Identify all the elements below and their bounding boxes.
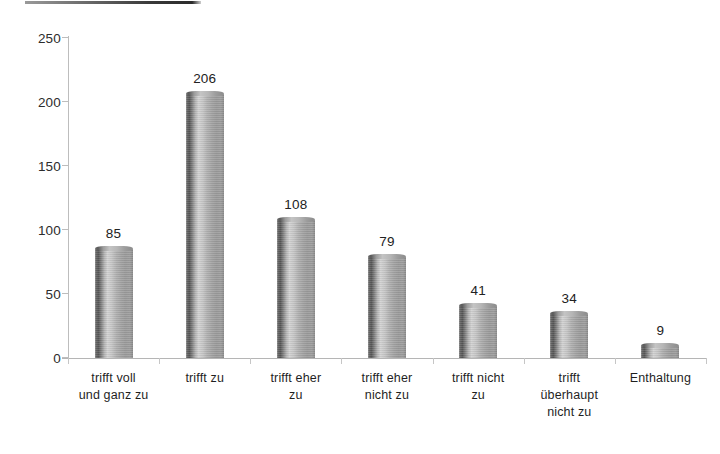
bar[interactable]: 79: [368, 233, 406, 358]
x-axis-category-label-line: trifft eher: [341, 370, 432, 387]
x-axis-category-label: trifft ehernicht zu: [341, 370, 432, 404]
x-axis-category-label-line: trifft nicht: [433, 370, 524, 387]
bar-chart: 250200150100500 852061087941349 trifft v…: [0, 0, 720, 454]
y-axis-tick-label: 200: [38, 95, 61, 110]
bar[interactable]: 34: [550, 290, 588, 358]
x-axis-tick-mark: [433, 358, 434, 364]
x-axis-category-label-line: überhaupt: [524, 387, 615, 404]
x-axis-category-label: trifftüberhauptnicht zu: [524, 370, 615, 421]
x-axis-category-label-line: zu: [250, 387, 341, 404]
bar-value-label: 206: [186, 71, 224, 86]
y-axis-tick-mark: [62, 165, 69, 166]
y-axis-tick-mark: [62, 293, 69, 294]
title-underline-rule: [25, 1, 201, 4]
x-axis-tick-mark: [706, 358, 707, 364]
y-axis-line: [68, 36, 69, 360]
bar-top-cap: [95, 246, 133, 251]
bar-value-label: 79: [368, 234, 406, 249]
x-axis-category-label-line: trifft voll: [68, 370, 159, 387]
bar-value-label: 108: [277, 197, 315, 212]
bar-body: [368, 257, 406, 358]
x-axis-tick-mark: [159, 358, 160, 364]
x-axis-category-label: trifft nichtzu: [433, 370, 524, 404]
x-axis-category-label: trifft vollund ganz zu: [68, 370, 159, 404]
bar-top-cap: [277, 217, 315, 222]
bar-body: [459, 306, 497, 358]
bar-top-cap: [550, 311, 588, 316]
x-axis-category-label: trifft zu: [159, 370, 250, 387]
y-axis-tick-mark: [62, 101, 69, 102]
bar[interactable]: 9: [641, 322, 679, 358]
bar[interactable]: 85: [95, 225, 133, 358]
x-axis-tick-mark: [524, 358, 525, 364]
bar[interactable]: 41: [459, 282, 497, 358]
y-axis-tick-label: 150: [38, 159, 61, 174]
x-axis-category-label-line: trifft: [524, 370, 615, 387]
x-axis-category-label-line: Enthaltung: [615, 370, 706, 387]
y-axis-tick-label: 0: [53, 351, 61, 366]
bar-value-label: 41: [459, 283, 497, 298]
x-axis-category-label-line: trifft eher: [250, 370, 341, 387]
bar-body: [95, 249, 133, 358]
x-axis-tick-mark: [615, 358, 616, 364]
bar-top-cap: [186, 91, 224, 96]
bar-body: [186, 94, 224, 358]
x-axis-category-label: Enthaltung: [615, 370, 706, 387]
bar-top-cap: [368, 254, 406, 259]
bar[interactable]: 206: [186, 70, 224, 358]
x-axis-tick-mark: [250, 358, 251, 364]
y-axis-tick-mark: [62, 229, 69, 230]
y-axis-tick-label: 250: [38, 31, 61, 46]
y-axis-tick-mark: [62, 37, 69, 38]
bar-value-label: 85: [95, 226, 133, 241]
bar-body: [277, 220, 315, 358]
x-axis-category-label-line: zu: [433, 387, 524, 404]
bar-body: [550, 314, 588, 358]
x-axis-category-label: trifft eherzu: [250, 370, 341, 404]
x-axis-category-label-line: und ganz zu: [68, 387, 159, 404]
bar-top-cap: [459, 303, 497, 308]
x-axis-category-label-line: trifft zu: [159, 370, 250, 387]
y-axis-tick-label: 50: [46, 287, 61, 302]
bar-value-label: 9: [641, 323, 679, 338]
bar-value-label: 34: [550, 291, 588, 306]
y-axis-tick-label: 100: [38, 223, 61, 238]
bar[interactable]: 108: [277, 196, 315, 358]
x-axis-tick-mark: [341, 358, 342, 364]
x-axis-category-label-line: nicht zu: [524, 404, 615, 421]
bar-top-cap: [641, 343, 679, 348]
bar-body: [641, 346, 679, 358]
x-axis-tick-mark: [68, 358, 69, 364]
x-axis-category-label-line: nicht zu: [341, 387, 432, 404]
